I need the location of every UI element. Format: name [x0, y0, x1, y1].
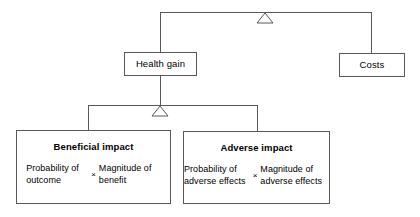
middle-connector-left-branch	[88, 105, 89, 130]
beneficial-probability-term: Probability of outcome	[26, 163, 88, 186]
middle-connector-horizontal	[88, 105, 257, 106]
beneficial-impact-formula: Probability of outcome × Magnitude of be…	[17, 163, 170, 186]
node-health-gain[interactable]: Health gain	[124, 52, 197, 76]
node-beneficial-impact-title: Beneficial impact	[17, 141, 170, 152]
diagram-canvas: Health gain Costs Beneficial impact Prob…	[0, 0, 420, 217]
node-costs-label: Costs	[360, 60, 385, 70]
middle-connector-right-branch	[257, 105, 258, 131]
top-connector-right-branch	[371, 12, 372, 53]
node-costs[interactable]: Costs	[339, 53, 405, 77]
node-health-gain-label: Health gain	[136, 59, 185, 69]
beneficial-magnitude-term: Magnitude of benefit	[99, 163, 161, 186]
adverse-probability-term: Probability of adverse effects	[184, 164, 250, 187]
node-adverse-impact[interactable]: Adverse impact Probability of adverse ef…	[183, 131, 330, 204]
top-junction-triangle-icon	[256, 12, 274, 24]
adverse-magnitude-term: Magnitude of adverse effects	[260, 164, 329, 187]
middle-junction-triangle-icon	[151, 105, 169, 117]
top-connector-left-branch	[160, 12, 161, 52]
adverse-impact-formula: Probability of adverse effects × Magnitu…	[184, 164, 329, 187]
adverse-multiply-operator: ×	[250, 172, 261, 180]
node-beneficial-impact[interactable]: Beneficial impact Probability of outcome…	[16, 130, 171, 204]
health-gain-down-stem	[160, 76, 161, 105]
node-adverse-impact-title: Adverse impact	[184, 142, 329, 153]
beneficial-multiply-operator: ×	[88, 171, 99, 179]
